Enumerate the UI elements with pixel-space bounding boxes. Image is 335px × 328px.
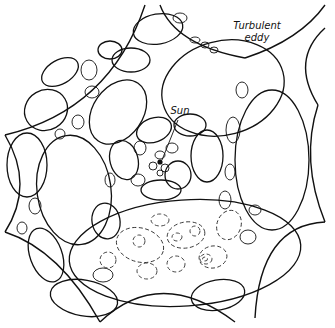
dashed-sub-eddy — [200, 254, 212, 264]
eddy-small — [173, 13, 187, 23]
turbulence-diagram: Turbulent eddy Sun — [0, 0, 335, 328]
boundary-left — [5, 135, 20, 232]
eddy-medium — [37, 52, 84, 93]
eddy-small — [236, 82, 248, 98]
eddy-small — [149, 162, 157, 170]
sun-pointer-line — [162, 120, 178, 160]
turbulent-eddy-label: Turbulent eddy — [212, 20, 302, 44]
boundary-right-upper — [306, 28, 325, 105]
boundary-bottom-left — [5, 232, 100, 322]
eddy-small — [134, 141, 146, 155]
dashed-sub-eddy — [112, 222, 167, 267]
dashed-sub-eddy — [190, 226, 200, 236]
dashed-sub-eddy — [172, 233, 182, 241]
eddy-small — [85, 86, 99, 98]
eddy-medium — [191, 130, 223, 182]
dashed-sub-eddy — [137, 263, 157, 279]
eddy-small — [240, 230, 256, 244]
eddy-small — [93, 268, 113, 282]
eddy-large-left — [30, 130, 119, 249]
boundary-right — [310, 105, 325, 222]
dashed-sub-eddy — [151, 214, 169, 226]
label-line-1: Turbulent — [212, 20, 302, 32]
eddy-small — [17, 222, 27, 234]
dashed-sub-eddy — [197, 244, 228, 271]
eddy-medium — [189, 276, 247, 315]
eddy-medium — [174, 114, 206, 136]
eddy-small — [131, 174, 145, 186]
dashed-sub-eddy — [165, 219, 207, 251]
boundary-bottom — [100, 294, 235, 323]
eddy-small — [72, 115, 84, 129]
eddy-medium — [7, 133, 47, 197]
dashed-sub-eddy — [203, 257, 208, 261]
eddy-small — [155, 151, 165, 159]
eddy-network — [0, 0, 335, 328]
dashed-sub-eddy — [167, 256, 185, 272]
eddy-small — [225, 164, 235, 180]
eddy-large-top — [151, 27, 295, 150]
sun-label: Sun — [165, 105, 195, 117]
dashed-sub-eddy — [100, 252, 116, 268]
eddy-medium — [98, 41, 122, 59]
eddy-small — [157, 170, 163, 176]
dashed-sub-eddy — [133, 235, 145, 247]
eddy-medium — [141, 180, 181, 200]
sun-dot — [157, 159, 162, 164]
label-line-2: eddy — [212, 32, 302, 44]
eddy-small — [81, 60, 97, 80]
eddy-medium — [89, 201, 123, 241]
